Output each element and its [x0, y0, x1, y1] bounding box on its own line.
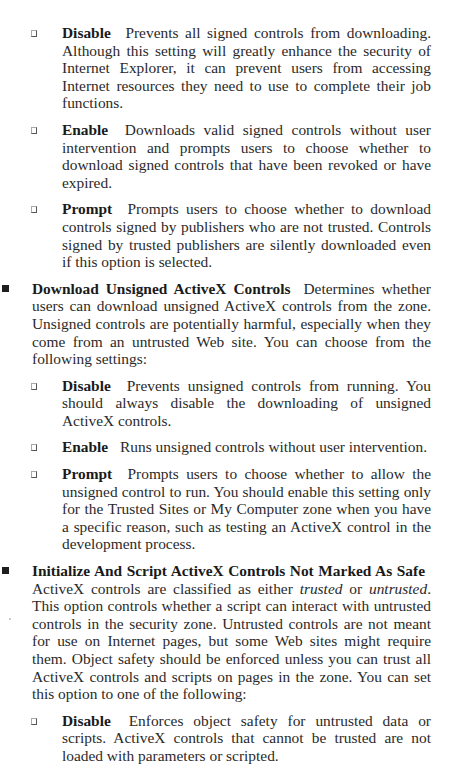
list-item-enable-signed: Enable Downloads valid signed controls w…	[0, 121, 451, 191]
checkbox-bullet-icon	[31, 30, 37, 37]
list-item-download-unsigned: Download Unsigned ActiveX Controls Deter…	[0, 280, 451, 368]
term-label: Prompt	[62, 200, 112, 217]
section-heading: Initialize And Script ActiveX Controls N…	[32, 562, 425, 579]
list-item-enable-unsigned: Enable Runs unsigned controls without us…	[0, 438, 451, 456]
term-description: Runs unsigned controls without user inte…	[120, 438, 427, 455]
term-label: Disable	[62, 24, 111, 41]
document-page: Disable Prevents all signed controls fro…	[0, 24, 451, 768]
term-label: Prompt	[62, 465, 112, 482]
section-heading: Download Unsigned ActiveX Controls	[32, 280, 290, 297]
list-item-disable-signed: Disable Prevents all signed controls fro…	[0, 24, 451, 112]
checkbox-bullet-icon	[31, 444, 37, 451]
list-item-disable-object-safety: Disable Enforces object safety for untru…	[0, 712, 451, 765]
scan-speck	[9, 618, 11, 620]
checkbox-bullet-icon	[31, 383, 37, 390]
checkbox-bullet-icon	[31, 127, 37, 134]
term-description: Prompts users to choose whether to allow…	[62, 465, 431, 552]
checkbox-bullet-icon	[31, 471, 37, 478]
checkbox-bullet-icon	[31, 718, 37, 725]
section-description-part: . This option controls whether a script …	[32, 580, 431, 703]
emphasis-trusted: trusted	[300, 580, 343, 597]
list-item-prompt-signed: Prompt Prompts users to choose whether t…	[0, 200, 451, 270]
checkbox-bullet-icon	[31, 206, 37, 213]
list-item-prompt-unsigned: Prompt Prompts users to choose whether t…	[0, 465, 451, 553]
term-description: Downloads valid signed controls without …	[62, 121, 431, 191]
emphasis-untrusted: untrusted	[369, 580, 427, 597]
section-description-part: or	[342, 580, 369, 597]
section-description-part: ActiveX controls are classified as eithe…	[32, 580, 300, 597]
list-item-disable-unsigned: Disable Prevents unsigned controls from …	[0, 377, 451, 430]
square-bullet-icon	[2, 567, 9, 574]
term-description: Prevents all signed controls from downlo…	[62, 24, 431, 111]
term-label: Disable	[62, 712, 111, 729]
term-description: Prevents unsigned controls from running.…	[62, 377, 431, 429]
list-item-initialize-script: Initialize And Script ActiveX Controls N…	[0, 562, 451, 703]
term-label: Disable	[62, 377, 111, 394]
term-label: Enable	[62, 121, 108, 138]
term-description: Enforces object safety for untrusted dat…	[62, 712, 431, 764]
term-description: Prompts users to choose whether to downl…	[62, 200, 431, 270]
square-bullet-icon	[2, 285, 9, 292]
term-label: Enable	[62, 438, 108, 455]
